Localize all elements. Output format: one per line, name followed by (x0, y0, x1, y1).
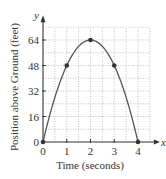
y-axis-label: Position above Ground (feet) (8, 23, 21, 151)
data-point-marker (88, 38, 93, 43)
y-tick-label: 16 (28, 111, 40, 123)
y-axis-variable: y (33, 9, 39, 21)
y-axis-arrow-icon (41, 15, 46, 22)
x-axis-arrow-icon (154, 140, 160, 145)
y-tick-label: 64 (28, 34, 40, 46)
chart: 01234016324864 x y Time (seconds) Positi… (0, 0, 166, 179)
y-tick-label: 48 (28, 60, 40, 72)
data-point-marker (64, 63, 69, 68)
axes (41, 15, 160, 144)
data-point-marker (41, 140, 46, 145)
x-axis-label: Time (seconds) (56, 159, 124, 172)
y-tick-label: 32 (28, 85, 39, 97)
x-tick-label: 1 (64, 145, 70, 157)
y-tick-label: 0 (34, 136, 40, 148)
data-point-marker (112, 63, 117, 68)
x-tick-label: 3 (112, 145, 118, 157)
x-tick-label: 2 (88, 145, 94, 157)
data-point-marker (136, 140, 141, 145)
x-tick-label: 4 (135, 145, 141, 157)
x-tick-label: 0 (40, 145, 46, 157)
x-axis-variable: x (160, 136, 166, 148)
ticks: 01234016324864 (28, 34, 141, 157)
